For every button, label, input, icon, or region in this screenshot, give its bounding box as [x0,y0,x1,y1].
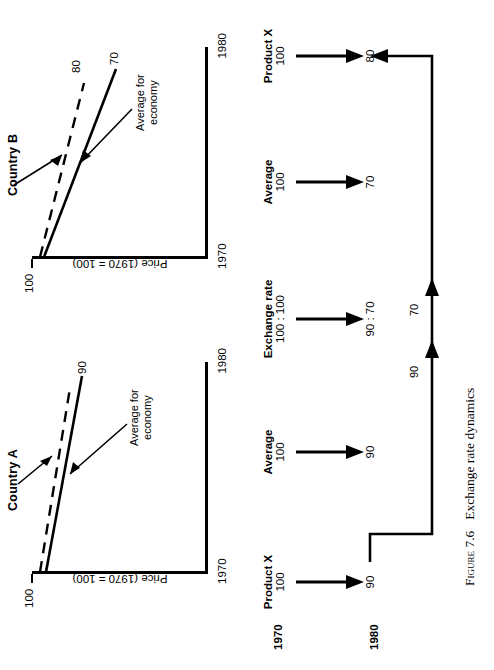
feedback-label-from: 90 [408,366,420,378]
x-tick-1980-country-b: 1980 [216,33,228,59]
x-tick-1970-country-a: 1970 [216,558,228,584]
annotation-average-line1-country-b: Average for [134,74,146,131]
feedback-midarrow-90 [425,340,439,358]
x-tick-1980-country-a: 1980 [216,348,228,374]
x-tick-1970-country-b: 1970 [216,243,228,269]
flow-arrowhead-col-0 [346,575,364,589]
series-end-label-average-country-b: 70 [108,52,120,65]
annotation-average-country-a: Average for economy [128,389,153,446]
leader-arrowhead-average-country-a [70,462,80,474]
series-lines-country-b [32,47,208,259]
y-tick-100-country-a [31,574,33,583]
feedback-path [370,56,432,562]
y-tick-100-country-b [31,259,33,268]
annotation-average-country-b: Average for economy [134,74,159,131]
y-axis-label-country-a: Price (1970 = 100) [73,573,168,585]
flow-arrowhead-col-1 [346,445,364,459]
y-tick-label-country-a: 100 [23,589,35,608]
chart-title-country-b: Country B [6,15,20,315]
flow-arrowhead-col-3 [346,175,364,189]
flow-arrows [256,0,456,670]
series-end-label-average-country-a: 90 [76,361,88,374]
flow-arrowhead-col-2 [346,312,364,326]
leader-line-average-country-a [70,424,127,474]
y-axis-label-country-b: Price (1970 = 100) [73,258,168,270]
figure-number-word: Figure [462,551,477,586]
annotation-average-line1-country-a: Average for [128,389,140,446]
feedback-label-to: 70 [408,304,420,316]
plot-area-country-a: 100 Price (1970 = 100) 1970 1980 90 Prod… [32,362,208,574]
figure-number-label: Figure 7.6 [462,531,477,586]
figure-caption: Figure 7.6Exchange rate dynamics [462,388,478,586]
chart-country-a: Country A 100 Price (1970 = 100) 1970 19… [6,330,254,630]
y-tick-label-country-b: 100 [23,274,35,293]
plot-area-country-b: 100 Price (1970 = 100) 1970 1980 80 70 P… [32,47,208,259]
feedback-midarrow-70 [425,278,439,296]
figure-page: Country A 100 Price (1970 = 100) 1970 19… [0,0,494,670]
series-line-average-country-a [46,376,82,572]
annotation-product-x-country-a: Product X [0,490,1,538]
figure-caption-text: Exchange rate dynamics [462,388,477,520]
chart-country-b: Country B 100 Price (1970 = 100) 1970 19… [6,15,254,315]
annotation-average-line2-country-a: economy [141,395,153,440]
flow-arrowhead-col-4 [346,49,364,63]
leader-arrowhead-average-country-b [80,150,91,163]
rotated-page-wrapper: Country A 100 Price (1970 = 100) 1970 19… [0,0,494,670]
feedback-arrowhead [370,49,388,63]
chart-title-country-a: Country A [6,330,20,630]
leader-arrowhead-product-x-country-b [50,155,62,166]
series-end-label-product-x-country-b: 80 [70,60,82,73]
figure-number-value: 7.6 [462,531,477,548]
series-lines-country-a [32,362,208,574]
series-line-product-x-country-a [40,388,70,572]
flow-diagram: 1970 1980 Product X 100 Average 100 Exch… [256,0,456,670]
annotation-average-line2-country-b: economy [147,80,159,125]
